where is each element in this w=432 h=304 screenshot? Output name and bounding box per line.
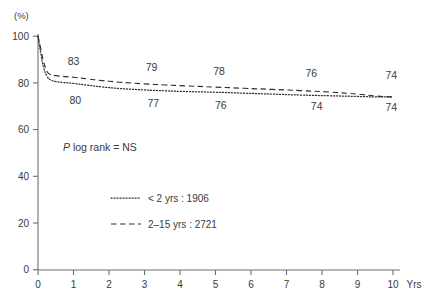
data-label-2-15-yrs-2: 78 <box>213 65 225 77</box>
x-tick-label-0: 0 <box>35 279 41 290</box>
p-value-annotation: P log rank = NS <box>63 141 137 153</box>
legend-label-2-15-yrs: 2–15 yrs : 2721 <box>148 219 217 230</box>
data-label--2-yrs-4: 74 <box>385 101 397 113</box>
y-tick-label-80: 80 <box>18 78 30 89</box>
legend-item-2-15-yrs[interactable]: 2–15 yrs : 2721 <box>111 219 217 230</box>
y-axis-group: 100 80 60 40 20 0 (%) <box>12 10 38 275</box>
x-tick-label-2: 2 <box>106 279 112 290</box>
legend-label-under-2-yrs: < 2 yrs : 1906 <box>148 193 209 204</box>
data-label-2-15-yrs-0: 83 <box>68 55 80 67</box>
p-value-text: log rank = NS <box>70 141 137 153</box>
y-tick-label-20: 20 <box>18 218 30 229</box>
y-axis-ticks <box>33 36 38 270</box>
data-label-2-15-yrs-1: 79 <box>146 61 158 73</box>
x-tick-label-10: 10 <box>387 279 399 290</box>
x-axis-tick-labels: 0 1 2 3 4 5 6 7 8 9 10 <box>35 279 399 290</box>
data-labels-group: 80777674748379787674 <box>68 55 398 113</box>
x-tick-label-3: 3 <box>142 279 148 290</box>
y-tick-label-0: 0 <box>23 264 29 275</box>
data-label--2-yrs-1: 77 <box>148 97 160 109</box>
chart-page: 100 80 60 40 20 0 (%) <box>0 0 432 304</box>
x-tick-label-6: 6 <box>248 279 254 290</box>
x-axis-unit-label: Yrs <box>407 279 422 290</box>
data-label--2-yrs-2: 76 <box>215 99 227 111</box>
p-value-annotation-group: P log rank = NS <box>63 141 137 153</box>
x-axis-ticks <box>38 270 393 275</box>
data-label--2-yrs-0: 80 <box>69 94 81 106</box>
x-tick-label-8: 8 <box>319 279 325 290</box>
y-axis-unit-label: (%) <box>14 10 29 21</box>
x-tick-label-4: 4 <box>177 279 183 290</box>
y-tick-label-40: 40 <box>18 171 30 182</box>
x-tick-label-7: 7 <box>284 279 290 290</box>
data-label--2-yrs-3: 74 <box>311 100 323 112</box>
x-tick-label-9: 9 <box>355 279 361 290</box>
legend: < 2 yrs : 1906 2–15 yrs : 2721 <box>111 193 217 230</box>
legend-item-under-2-yrs[interactable]: < 2 yrs : 1906 <box>111 193 209 204</box>
x-axis-group: 0 1 2 3 4 5 6 7 8 9 10 Yrs <box>35 270 421 290</box>
data-label-2-15-yrs-4: 74 <box>385 69 397 81</box>
x-tick-label-5: 5 <box>213 279 219 290</box>
p-value-symbol: P <box>63 141 70 153</box>
data-label-2-15-yrs-3: 76 <box>306 67 318 79</box>
y-tick-label-100: 100 <box>12 31 29 42</box>
y-tick-label-60: 60 <box>18 124 30 135</box>
survival-curve-chart: 100 80 60 40 20 0 (%) <box>0 0 432 304</box>
x-tick-label-1: 1 <box>71 279 77 290</box>
y-axis-tick-labels: 100 80 60 40 20 0 <box>12 31 29 275</box>
